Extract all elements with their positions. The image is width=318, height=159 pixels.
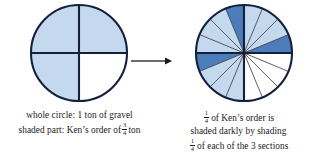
fraction-three-fourths: 34 xyxy=(122,122,127,136)
fraction-numerator: 3 xyxy=(122,122,127,129)
fraction-denominator: 4 xyxy=(122,129,127,137)
fraction-one-fourth-second: 14 xyxy=(190,138,195,152)
left-caption-line-2-unit: ton xyxy=(128,125,140,135)
right-caption: 14of Ken’s order is shaded darkly by sha… xyxy=(159,110,318,153)
right-caption-line-3: 14of each of the 3 sections xyxy=(159,138,318,153)
left-caption-line-2: shaded part: Ken’s order of34ton xyxy=(0,122,159,137)
fraction-denominator: 4 xyxy=(204,117,209,125)
fraction-diagram-figure: whole circle: 1 ton of gravel shaded par… xyxy=(0,0,318,159)
left-caption: whole circle: 1 ton of gravel shaded par… xyxy=(0,109,159,137)
fraction-numerator: 1 xyxy=(204,110,209,117)
left-caption-line-1: whole circle: 1 ton of gravel xyxy=(0,109,159,122)
fraction-numerator: 1 xyxy=(190,138,195,145)
right-caption-line-3-text: of each of the 3 sections xyxy=(197,141,288,151)
left-caption-line-2-text: shaded part: Ken’s order of xyxy=(19,125,122,135)
right-caption-line-1-text: of Ken’s order is xyxy=(211,113,274,123)
fraction-one-fourth-first: 14 xyxy=(204,110,209,124)
left-panel: whole circle: 1 ton of gravel shaded par… xyxy=(0,0,159,159)
circle-sixteenths-diagram xyxy=(159,0,318,108)
right-caption-line-2: shaded darkly by shading xyxy=(159,125,318,138)
fraction-denominator: 4 xyxy=(190,145,195,153)
right-panel: 14of Ken’s order is shaded darkly by sha… xyxy=(159,0,318,159)
right-caption-line-1: 14of Ken’s order is xyxy=(159,110,318,125)
